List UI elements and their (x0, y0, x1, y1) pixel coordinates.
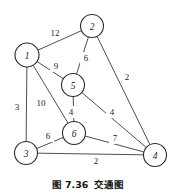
node-label-3: 3 (23, 149, 29, 159)
edge-3-4 (37, 153, 143, 155)
edge-weight-1-2: 12 (51, 28, 60, 38)
edge-weight-3-4: 2 (94, 156, 99, 166)
edge-weight-1-5: 9 (54, 61, 59, 71)
figure-container: 123456 1293106244627 图 7.36交通图 (0, 0, 176, 193)
figure-caption-number: 图 7.36 (52, 179, 89, 190)
edge-weight-3-6: 6 (46, 131, 51, 141)
figure-caption: 图 7.36交通图 (0, 177, 176, 191)
edge-1-6 (33, 65, 68, 123)
node-label-6: 6 (72, 129, 77, 139)
nodes-group: 123456 (15, 15, 167, 167)
edge-weight-5-4: 4 (110, 107, 115, 117)
edge-weight-1-3: 3 (15, 102, 20, 112)
node-label-4: 4 (153, 151, 158, 161)
edge-1-3 (26, 67, 27, 142)
edge-weight-6-4: 7 (113, 133, 118, 143)
node-label-5: 5 (71, 81, 76, 91)
edge-weight-1-6: 10 (37, 98, 47, 108)
edge-weight-2-4: 2 (125, 72, 130, 82)
node-label-2: 2 (90, 22, 95, 32)
edge-weight-5-6: 4 (69, 107, 74, 117)
figure-caption-title: 交通图 (94, 179, 124, 190)
traffic-graph-diagram: 123456 1293106244627 (0, 0, 176, 193)
edge-weight-2-5: 6 (84, 53, 89, 63)
node-label-1: 1 (25, 51, 30, 61)
